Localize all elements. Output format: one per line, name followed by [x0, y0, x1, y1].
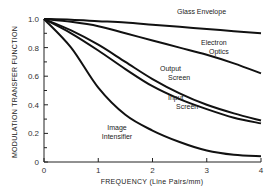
- x-axis-title: FREQUENCY (Line Pairs/mm): [101, 178, 204, 186]
- y-ticks: 00.20.40.60.81.0: [28, 15, 48, 167]
- x-tick-label: 2: [150, 166, 155, 175]
- y-tick-label: 0.8: [28, 44, 40, 53]
- curves: [44, 19, 261, 156]
- curve-label: Screen: [168, 74, 190, 81]
- mtf-chart: 00.20.40.60.81.0 01234 Glass EnvelopeEle…: [0, 0, 276, 195]
- y-tick-label: 0: [35, 158, 40, 167]
- curve-electron-optics: [44, 19, 261, 73]
- curve-label: Electron: [201, 39, 227, 46]
- curve-glass-envelope: [44, 19, 261, 33]
- y-tick-label: 1.0: [28, 15, 40, 24]
- curve-labels: Glass EnvelopeElectronOpticsOutputScreen…: [102, 8, 230, 140]
- curve-label: Intensifier: [102, 133, 133, 140]
- curve-label: Glass Envelope: [177, 8, 226, 16]
- x-tick-label: 3: [205, 166, 210, 175]
- curve-label: Image: [107, 124, 127, 132]
- y-axis-title: MODULATION TRANSFER FUNCTION: [11, 26, 18, 158]
- y-tick-label: 0.6: [28, 72, 40, 81]
- curve-label: Optics: [209, 48, 229, 56]
- x-tick-label: 0: [42, 166, 47, 175]
- curve-label: Input: [168, 94, 184, 102]
- x-ticks: 01234: [42, 158, 264, 175]
- curve-label: Screen: [176, 103, 198, 110]
- y-tick-label: 0.2: [28, 129, 40, 138]
- curve-label: Output: [160, 65, 181, 73]
- x-tick-label: 1: [96, 166, 101, 175]
- x-tick-label: 4: [259, 166, 264, 175]
- curve-output-screen: [44, 19, 261, 121]
- y-tick-label: 0.4: [28, 101, 40, 110]
- curve-input-screen: [44, 19, 261, 123]
